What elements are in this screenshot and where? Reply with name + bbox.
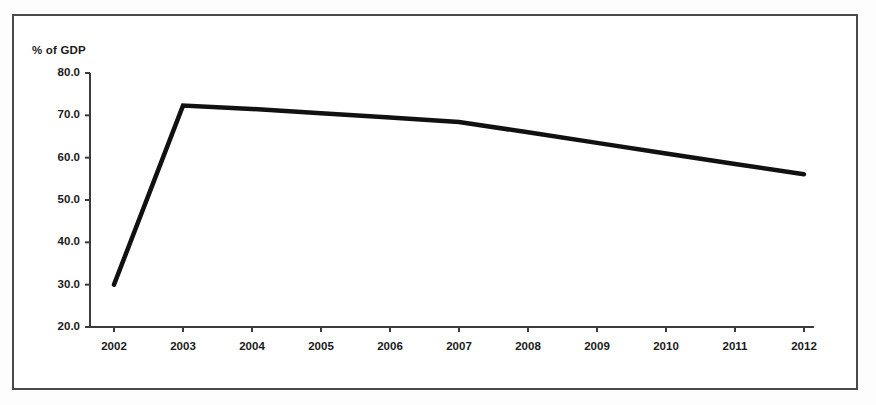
y-axis-tick-label: 50.0	[38, 193, 80, 205]
axes	[90, 73, 814, 327]
y-axis-tick-label: 20.0	[38, 320, 80, 332]
y-axis-tick-label: 40.0	[38, 235, 80, 247]
x-axis-tick-label: 2003	[157, 340, 209, 352]
series-line-percent-of-gdp	[114, 106, 804, 285]
x-axis-tick-label: 2012	[778, 340, 830, 352]
figure-frame: % of GDP 20.030.040.050.060.070.080.0 20…	[12, 14, 858, 390]
x-axis-tick-label: 2007	[433, 340, 485, 352]
y-axis-tick-label: 60.0	[38, 151, 80, 163]
x-axis-tick-label: 2009	[571, 340, 623, 352]
x-axis-tick-label: 2010	[640, 340, 692, 352]
chart-canvas	[14, 16, 860, 392]
y-axis-tick-label: 30.0	[38, 278, 80, 290]
x-axis-tick-label: 2011	[709, 340, 761, 352]
y-axis-tick-label: 80.0	[38, 66, 80, 78]
figure-page: % of GDP 20.030.040.050.060.070.080.0 20…	[0, 0, 876, 405]
y-axis-tick-label: 70.0	[38, 108, 80, 120]
x-axis-tick-label: 2008	[502, 340, 554, 352]
x-axis-tick-label: 2006	[364, 340, 416, 352]
line-chart: % of GDP 20.030.040.050.060.070.080.0 20…	[14, 16, 860, 392]
x-axis-tick-label: 2004	[226, 340, 278, 352]
y-axis-title: % of GDP	[32, 44, 86, 56]
x-axis-tick-label: 2005	[295, 340, 347, 352]
series-group	[114, 106, 804, 285]
x-axis-tick-label: 2002	[88, 340, 140, 352]
